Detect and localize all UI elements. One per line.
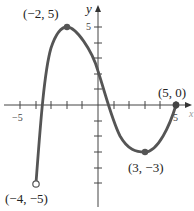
y-axis-arrow-icon: [95, 5, 101, 12]
y-axis: [95, 5, 101, 207]
point-min: [142, 149, 148, 155]
point-max: [64, 24, 70, 30]
x-tick-label-neg5: −5: [12, 112, 23, 123]
label-point-start: (−4, −5): [5, 191, 48, 206]
label-point-end: (5, 0): [158, 85, 186, 100]
y-axis-label: y: [84, 1, 92, 16]
label-point-max: (−2, 5): [23, 6, 59, 21]
function-graph: −5 5 5 y x (−2, 5) (3, −3) (5, 0) (−4, −…: [0, 0, 194, 211]
y-tick-label-5: 5: [86, 21, 91, 32]
point-start-open: [33, 181, 39, 187]
label-point-min: (3, −3): [128, 160, 164, 175]
x-axis-label: x: [188, 108, 194, 119]
point-end: [173, 102, 180, 109]
